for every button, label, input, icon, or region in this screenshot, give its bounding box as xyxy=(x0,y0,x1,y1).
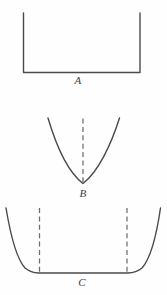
potential-well-figure: A B C xyxy=(0,0,167,295)
panel-c-label: C xyxy=(70,277,94,288)
panel-c-curve xyxy=(6,208,161,273)
panel-a-label: A xyxy=(66,75,90,86)
figure-canvas xyxy=(0,0,167,295)
panel-a-group xyxy=(24,13,141,73)
panel-b-label: B xyxy=(71,188,95,199)
panel-b-curve xyxy=(48,118,120,184)
panel-c-group xyxy=(6,208,161,273)
panel-a-curve xyxy=(24,13,141,73)
panel-b-group xyxy=(48,118,120,184)
